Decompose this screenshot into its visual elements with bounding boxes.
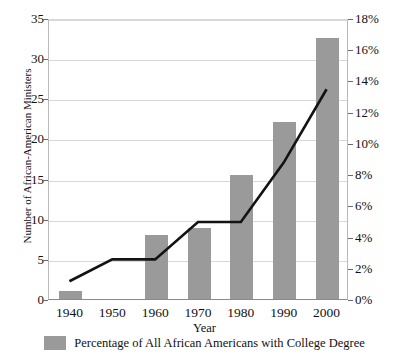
chart-container: 05101520253035 0%2%4%6%8%10%12%14%16%18%… [0, 0, 409, 357]
gridline [49, 140, 347, 141]
y-axis-left-tick-mark [43, 300, 48, 301]
y-axis-right-tick-label: 16% [355, 43, 405, 56]
gridline [49, 181, 347, 182]
y-axis-left-tick-label: 0 [4, 293, 44, 306]
gridline [49, 60, 347, 61]
bar [273, 122, 296, 299]
x-axis-title: Year [0, 322, 409, 335]
legend-label-percentage: Percentage of All African Americans with… [74, 336, 365, 350]
y-axis-right-tick-mark [348, 113, 353, 114]
y-axis-right-tick-label: 8% [355, 168, 405, 181]
bar [316, 38, 339, 299]
bar [145, 235, 168, 299]
y-axis-right-tick-mark [348, 300, 353, 301]
chart-legend: Percentage of All African Americans with… [0, 336, 409, 350]
y-axis-right-tick-label: 12% [355, 106, 405, 119]
plot-area [48, 19, 348, 300]
gridline [49, 221, 347, 222]
gridline [49, 100, 347, 101]
y-axis-right-tick-mark [348, 144, 353, 145]
bar [59, 291, 82, 299]
y-axis-right-tick-mark [348, 238, 353, 239]
y-axis-right-tick-mark [348, 206, 353, 207]
y-axis-right-tick-label: 6% [355, 199, 405, 212]
x-axis-tick-label: 2000 [297, 306, 357, 320]
bar [230, 175, 253, 299]
y-axis-right-tick-label: 14% [355, 74, 405, 87]
y-axis-left-tick-label: 35 [4, 12, 44, 25]
y-axis-right-tick-mark [348, 175, 353, 176]
y-axis-right-tick-label: 10% [355, 137, 405, 150]
y-axis-right-tick-label: 0% [355, 293, 405, 306]
y-axis-title: Number of African-American Ministers [21, 56, 33, 256]
y-axis-right-tick-label: 2% [355, 262, 405, 275]
legend-swatch-percentage [44, 336, 66, 350]
gridline [49, 20, 347, 21]
y-axis-right-tick-label: 4% [355, 231, 405, 244]
y-axis-right-tick-mark [348, 81, 353, 82]
y-axis-right-tick-label: 18% [355, 12, 405, 25]
y-axis-right-tick-mark [348, 19, 353, 20]
bar [188, 228, 211, 299]
y-axis-right-tick-mark [348, 269, 353, 270]
y-axis-right-tick-mark [348, 50, 353, 51]
